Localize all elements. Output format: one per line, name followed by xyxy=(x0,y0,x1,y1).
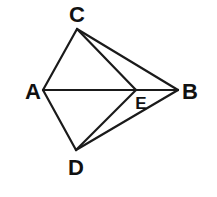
label-a: A xyxy=(25,79,41,104)
segment-ad xyxy=(43,90,76,150)
label-b: B xyxy=(182,79,198,104)
label-c: C xyxy=(69,2,85,27)
label-e: E xyxy=(135,94,146,113)
label-d: D xyxy=(68,155,84,180)
segments xyxy=(43,29,178,150)
segment-ac xyxy=(43,29,77,90)
geometry-diagram: A B C D E xyxy=(0,0,217,197)
